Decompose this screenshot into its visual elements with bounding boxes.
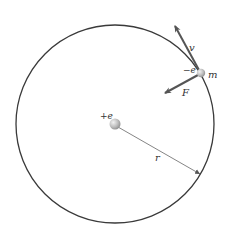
- atom-diagram: r +e v F −e m: [0, 0, 232, 232]
- nucleus-charge-label: +e: [100, 111, 113, 121]
- electron-charge-label: −e: [183, 65, 196, 75]
- radius-line: [118, 127, 200, 174]
- velocity-label: v: [189, 42, 195, 53]
- electron: [197, 69, 205, 77]
- force-label: F: [181, 87, 190, 98]
- radius-label: r: [155, 152, 161, 163]
- electron-mass-label: m: [208, 69, 217, 80]
